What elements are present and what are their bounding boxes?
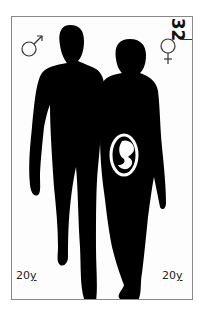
male-age-unit: y bbox=[30, 269, 37, 282]
card-number-underline bbox=[182, 39, 192, 40]
couple-silhouette-illustration bbox=[12, 17, 193, 300]
card-number: 32 bbox=[170, 18, 187, 42]
female-symbol-icon bbox=[161, 39, 175, 64]
male-age-number: 20 bbox=[16, 269, 30, 282]
male-age-label: 20y bbox=[16, 269, 37, 282]
card: 32 20y 20y bbox=[11, 16, 193, 300]
male-silhouette bbox=[29, 25, 104, 300]
female-age-number: 20 bbox=[162, 269, 176, 282]
female-age-label: 20y bbox=[162, 269, 183, 282]
male-symbol-icon bbox=[22, 36, 42, 56]
female-age-unit: y bbox=[176, 269, 183, 282]
